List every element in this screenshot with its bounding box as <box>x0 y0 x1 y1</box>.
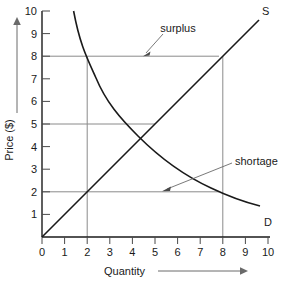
x-tick-label-0: 0 <box>39 246 45 258</box>
x-tick-label-5: 5 <box>152 246 158 258</box>
shortage-label: shortage <box>235 155 278 167</box>
surplus-leader-line <box>146 34 163 53</box>
y-axis-title: Price ($) <box>3 119 15 161</box>
curve-labels-group: S D <box>262 5 272 228</box>
x-tick-label-9: 9 <box>242 246 248 258</box>
demand-curve-label: D <box>264 216 272 228</box>
x-tick-label-8: 8 <box>220 246 226 258</box>
y-tick-label-8: 8 <box>31 50 37 62</box>
y-tick-label-7: 7 <box>31 73 37 85</box>
y-axis-ticks <box>42 11 50 214</box>
y-tick-label-6: 6 <box>31 95 37 107</box>
x-tick-label-10: 10 <box>262 246 274 258</box>
supply-curve <box>42 20 259 237</box>
x-tick-label-7: 7 <box>197 246 203 258</box>
x-axis-title-group: Quantity <box>104 265 248 277</box>
surplus-label: surplus <box>160 22 196 34</box>
surplus-annotation: surplus <box>143 22 196 56</box>
y-axis-title-group: Price ($) <box>3 17 21 161</box>
y-tick-label-4: 4 <box>31 141 37 153</box>
x-tick-label-4: 4 <box>129 246 135 258</box>
shortage-leader-line <box>167 163 232 189</box>
y-tick-label-5: 5 <box>31 118 37 130</box>
x-tick-label-2: 2 <box>84 246 90 258</box>
y-tick-label-3: 3 <box>31 163 37 175</box>
chart-canvas: 10 9 8 7 6 5 4 3 2 1 0 1 <box>0 0 281 283</box>
y-tick-label-1: 1 <box>31 208 37 220</box>
supply-demand-chart: 10 9 8 7 6 5 4 3 2 1 0 1 <box>0 0 281 283</box>
x-tick-label-3: 3 <box>107 246 113 258</box>
y-tick-label-2: 2 <box>31 186 37 198</box>
shortage-arrowhead-icon <box>162 187 171 192</box>
y-axis-arrowhead-icon <box>13 17 21 25</box>
x-axis-ticks <box>42 237 268 244</box>
y-axis-tick-labels: 10 9 8 7 6 5 4 3 2 1 <box>25 5 37 220</box>
shortage-annotation: shortage <box>162 155 278 191</box>
y-tick-label-9: 9 <box>31 28 37 40</box>
x-tick-label-1: 1 <box>62 246 68 258</box>
x-tick-label-6: 6 <box>175 246 181 258</box>
x-axis-arrowhead-icon <box>240 267 248 275</box>
x-axis-title: Quantity <box>104 265 145 277</box>
x-axis-tick-labels: 0 1 2 3 4 5 6 7 8 9 10 <box>39 246 274 258</box>
y-tick-label-10: 10 <box>25 5 37 17</box>
supply-curve-label: S <box>262 5 269 17</box>
